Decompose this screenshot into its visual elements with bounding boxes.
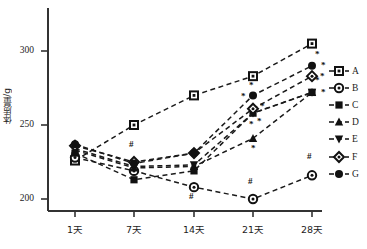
legend-item-C[interactable]: C: [328, 96, 359, 113]
datapoint-G-21天: [249, 91, 257, 99]
legend-label-B: B: [352, 83, 358, 93]
annotation-C-21天-6: *: [257, 117, 262, 126]
legend-marker-F-icon: [328, 150, 350, 164]
legend-item-E[interactable]: E: [328, 131, 359, 148]
annotation-D-21天-8: *: [251, 144, 256, 153]
legend-item-F[interactable]: F: [328, 148, 359, 165]
legend-label-E: E: [352, 134, 358, 144]
chart-legend: ABCDEFG: [328, 62, 359, 182]
annotation-F-28天-12: *: [320, 72, 325, 81]
annotation-F-7天-3: #: [129, 140, 134, 149]
annotation-G-28天-10: *: [315, 50, 320, 59]
datapoint-G-1天: [71, 140, 79, 148]
datapoint-A-21天: [249, 72, 257, 80]
annotation-B-21天-1: #: [248, 177, 253, 186]
legend-item-B[interactable]: B: [328, 79, 359, 96]
legend-label-D: D: [352, 117, 359, 127]
datapoint-G-28天: [308, 62, 316, 70]
datapoint-B-21天: [249, 195, 257, 203]
datapoint-C-7天: [130, 176, 137, 183]
legend-marker-D-icon: [328, 115, 350, 129]
x-tick-label-28: 28天: [292, 222, 332, 236]
datapoint-B-14天: [190, 183, 198, 191]
legend-marker-E-icon: [328, 132, 350, 146]
x-tick-label-21: 21天: [233, 222, 273, 236]
datapoint-B-28天: [308, 171, 316, 179]
legend-marker-B-icon: [328, 81, 350, 95]
legend-label-C: C: [352, 100, 358, 110]
legend-label-A: A: [352, 66, 359, 76]
chart-plot-area: [0, 0, 367, 249]
chart-figure: 体质量/g 300 250 200 1天 7天 14天 21天 28天 ABCD…: [0, 0, 367, 249]
legend-label-G: G: [352, 169, 359, 179]
legend-item-D[interactable]: D: [328, 114, 359, 131]
legend-item-G[interactable]: G: [328, 165, 359, 182]
datapoint-A-7天: [130, 121, 138, 129]
annotation-G-28天-11: *: [321, 61, 326, 70]
datapoint-G-7天: [130, 159, 138, 167]
annotation-D-21天-7: *: [249, 120, 254, 129]
datapoint-G-14天: [190, 149, 198, 157]
annotation-B-28天-2: #: [307, 152, 312, 161]
annotation-F-21天-5: *: [260, 102, 265, 111]
series-A: [71, 40, 316, 165]
annotation-C-28天-13: *: [315, 76, 320, 85]
legend-label-F: F: [352, 152, 357, 162]
datapoint-A-28天: [308, 40, 316, 48]
annotation-G-21天-4: *: [241, 92, 246, 101]
data-series-layer: [70, 40, 317, 204]
legend-item-A[interactable]: A: [328, 62, 359, 79]
y-tick-label-300: 300: [6, 45, 34, 55]
x-tick-label-1: 1天: [55, 222, 95, 236]
legend-marker-A-icon: [328, 64, 350, 78]
series-line-A: [75, 44, 312, 161]
annotation-A-21天-9: *: [249, 81, 254, 90]
series-G: [71, 62, 316, 168]
x-tick-label-7: 7天: [114, 222, 154, 236]
datapoint-A-14天: [190, 91, 198, 99]
legend-marker-C-icon: [328, 98, 350, 112]
y-tick-label-200: 200: [6, 193, 34, 203]
x-tick-label-14: 14天: [174, 222, 214, 236]
annotation-B-14天-0: #: [189, 192, 194, 201]
annotation-C-28天-14: *: [321, 88, 326, 97]
y-tick-label-250: 250: [6, 119, 34, 129]
legend-marker-G-icon: [328, 167, 350, 181]
